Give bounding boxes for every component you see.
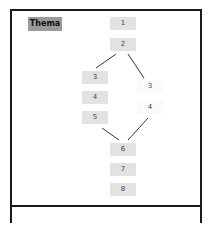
node-8: 8 [110,183,136,196]
edge-2-to-left-3 [96,54,116,68]
node-left-4: 4 [82,91,108,104]
node-right-3: 3 [137,80,163,93]
node-6: 6 [110,143,136,156]
edge-right-4-to-6 [128,118,148,140]
node-left-5: 5 [82,111,108,124]
node-1: 1 [110,17,136,30]
node-right-4: 4 [137,101,163,114]
node-7: 7 [110,163,136,176]
node-left-3: 3 [82,71,108,84]
edge-left-5-to-6 [102,128,119,140]
node-2: 2 [110,38,136,51]
edge-2-to-right-3 [128,54,144,78]
